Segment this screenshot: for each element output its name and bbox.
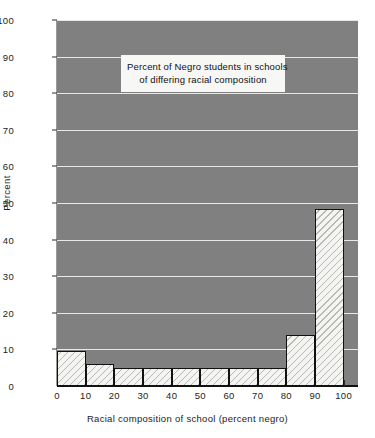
x-axis-tick-label: 70 <box>252 390 263 401</box>
y-axis-tick-mark <box>52 166 57 167</box>
y-axis-tick-label: 60 <box>0 161 14 172</box>
x-axis-tick-label: 100 <box>335 390 352 401</box>
chart-title-callout: Percent of Negro students in schools of … <box>121 55 285 92</box>
y-axis-tick-mark <box>52 56 57 57</box>
x-axis-tick-mark <box>344 380 345 386</box>
y-axis-tick-mark <box>52 20 57 21</box>
histogram-bar <box>258 368 287 386</box>
histogram-bar <box>143 368 172 386</box>
x-axis-tick-label: 80 <box>281 390 292 401</box>
x-axis-tick-label: 20 <box>109 390 120 401</box>
histogram-bar <box>57 351 86 387</box>
y-axis-tick-mark <box>52 312 57 313</box>
histogram-bar <box>172 368 201 386</box>
y-axis-tick-label: 40 <box>0 234 14 245</box>
y-axis-tick-label: 100 <box>0 15 14 26</box>
histogram-bar <box>229 368 258 386</box>
x-axis-tick-label: 30 <box>137 390 148 401</box>
y-axis-tick-mark <box>52 203 57 204</box>
x-axis-tick-label: 50 <box>195 390 206 401</box>
y-axis-tick-mark <box>52 129 57 130</box>
histogram-bar <box>86 364 115 386</box>
x-axis-tick-label: 10 <box>80 390 91 401</box>
y-axis-tick-mark <box>52 276 57 277</box>
y-axis-tick-label: 70 <box>0 124 14 135</box>
y-axis-tick-label: 0 <box>0 381 14 392</box>
y-axis-tick-mark <box>52 239 57 240</box>
y-axis-tick-label: 10 <box>0 344 14 355</box>
y-axis-tick-label: 30 <box>0 271 14 282</box>
x-axis-tick-label: 40 <box>166 390 177 401</box>
histogram-bar <box>200 368 229 386</box>
y-axis-tick-label: 80 <box>0 88 14 99</box>
x-axis-tick-label: 90 <box>309 390 320 401</box>
y-axis-title: Percent <box>1 175 12 211</box>
y-axis-tick-mark <box>52 93 57 94</box>
histogram-bar <box>114 368 143 386</box>
chart-container: 0102030405060708090100 01020304050607080… <box>0 0 375 438</box>
x-axis-tick-label: 60 <box>223 390 234 401</box>
x-axis-tick-label: 0 <box>54 390 60 401</box>
chart-title-line-1: Percent of Negro students in schools <box>127 60 279 73</box>
histogram-bar <box>315 209 344 387</box>
chart-title-line-2: of differing racial composition <box>127 73 279 86</box>
y-axis-tick-label: 20 <box>0 307 14 318</box>
histogram-bar <box>286 335 315 386</box>
y-axis-tick-label: 90 <box>0 51 14 62</box>
x-axis-title: Racial composition of school (percent ne… <box>0 413 375 424</box>
